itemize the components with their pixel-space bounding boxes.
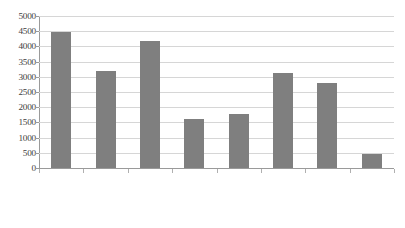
y-tickmark — [35, 138, 39, 139]
chart-plot-wrapper: 5000450040003500300025002000150010005000 — [0, 0, 405, 228]
y-tick-label: 5000 — [4, 12, 36, 21]
bar-chart: 5000450040003500300025002000150010005000 — [0, 0, 405, 228]
bar[interactable] — [96, 71, 116, 168]
y-tickmark — [35, 16, 39, 17]
bar[interactable] — [317, 83, 337, 168]
y-tick-label: 4000 — [4, 42, 36, 51]
bar-slot — [350, 16, 394, 168]
y-tick-label: 3500 — [4, 57, 36, 66]
y-tick-label: 4500 — [4, 27, 36, 36]
y-tick-label: 500 — [4, 148, 36, 157]
bar-slot — [39, 16, 83, 168]
y-tickmark — [35, 122, 39, 123]
plot-area — [39, 16, 394, 168]
y-tick-label: 0 — [4, 164, 36, 173]
bar-slot — [261, 16, 305, 168]
y-tickmark — [35, 62, 39, 63]
x-axis-category-labels — [39, 172, 394, 224]
bar[interactable] — [362, 154, 382, 168]
bar-slot — [83, 16, 127, 168]
bar-slot — [172, 16, 216, 168]
y-tick-label: 2000 — [4, 103, 36, 112]
y-tick-label: 1000 — [4, 133, 36, 142]
y-tickmark — [35, 92, 39, 93]
y-tickmark — [35, 77, 39, 78]
bar[interactable] — [140, 41, 160, 168]
y-tickmark — [35, 46, 39, 47]
bar-slot — [217, 16, 261, 168]
bar-slot — [305, 16, 349, 168]
bars-layer — [39, 16, 394, 168]
y-tickmark — [35, 153, 39, 154]
y-tick-label: 2500 — [4, 88, 36, 97]
y-tickmark — [35, 107, 39, 108]
y-tickmark — [35, 168, 39, 169]
y-tick-label: 3000 — [4, 72, 36, 81]
bar[interactable] — [184, 119, 204, 168]
y-tick-label: 1500 — [4, 118, 36, 127]
bar[interactable] — [229, 114, 249, 168]
y-tickmark — [35, 31, 39, 32]
bar-slot — [128, 16, 172, 168]
y-axis-tick-labels: 5000450040003500300025002000150010005000 — [4, 16, 36, 168]
bar[interactable] — [51, 32, 71, 168]
bar[interactable] — [273, 73, 293, 168]
